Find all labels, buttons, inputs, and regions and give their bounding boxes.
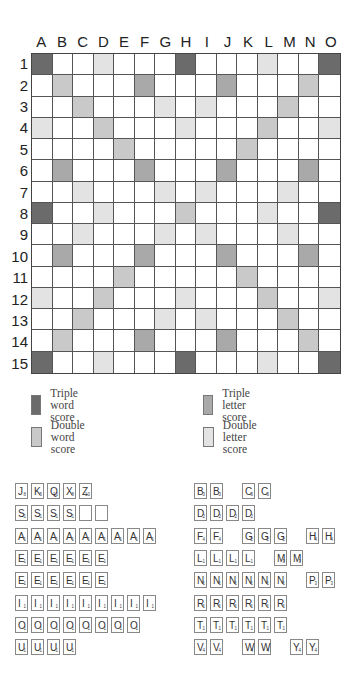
board-cell-H2 bbox=[176, 75, 197, 96]
board-cell-A3 bbox=[32, 97, 53, 118]
tile-a: A1 bbox=[47, 528, 60, 544]
board-cell-A1 bbox=[32, 54, 53, 75]
column-label: B bbox=[52, 33, 73, 51]
board-cell-D12 bbox=[94, 288, 115, 309]
board-cell-A5 bbox=[32, 139, 53, 160]
board-cell-D3 bbox=[94, 97, 115, 118]
tile-value: 4 bbox=[266, 648, 269, 653]
tile-a: A1 bbox=[111, 528, 124, 544]
tile-value: 1 bbox=[202, 581, 205, 586]
board-cell-H15 bbox=[176, 352, 197, 373]
row-label: 4 bbox=[0, 117, 28, 138]
board-cell-G1 bbox=[155, 54, 176, 75]
board-cell-O6 bbox=[319, 160, 340, 181]
board-cell-E1 bbox=[114, 54, 135, 75]
board-cell-N11 bbox=[299, 267, 320, 288]
left-tile-row: A1A1A1A1A1A1A1A1A1 bbox=[15, 528, 159, 545]
board-cell-E6 bbox=[114, 160, 135, 181]
board-cell-N3 bbox=[299, 97, 320, 118]
board-cell-C4 bbox=[73, 118, 94, 139]
board-cell-J11 bbox=[217, 267, 238, 288]
column-label: L bbox=[258, 33, 279, 51]
tile-value: 1 bbox=[39, 626, 42, 631]
tile-h: H4 bbox=[306, 528, 319, 544]
board-cell-O8 bbox=[319, 203, 340, 224]
tile-spacer bbox=[274, 639, 287, 655]
board-cell-M1 bbox=[278, 54, 299, 75]
board-cell-G9 bbox=[155, 224, 176, 245]
tile-e: E1 bbox=[15, 572, 28, 588]
tile-a: A1 bbox=[143, 528, 156, 544]
board-cell-E8 bbox=[114, 203, 135, 224]
tile-i: I1 bbox=[143, 595, 156, 611]
tile-spacer bbox=[258, 550, 271, 566]
board-cell-C14 bbox=[73, 330, 94, 351]
board-cell-L8 bbox=[258, 203, 279, 224]
tile-n: N1 bbox=[194, 572, 207, 588]
tile-letter: I bbox=[82, 597, 85, 610]
tile-value: 1 bbox=[135, 537, 138, 542]
board-cell-J9 bbox=[217, 224, 238, 245]
tile-o: O1 bbox=[111, 617, 124, 633]
tile-l: L1 bbox=[194, 550, 207, 566]
tile-value: 1 bbox=[39, 581, 42, 586]
column-label: M bbox=[279, 33, 300, 51]
tile-value: 1 bbox=[103, 559, 106, 564]
tile-value: 1 bbox=[202, 604, 205, 609]
board-cell-D9 bbox=[94, 224, 115, 245]
tile-r: R1 bbox=[242, 595, 255, 611]
tile-value: 1 bbox=[55, 537, 58, 542]
tile-value: 1 bbox=[39, 604, 42, 609]
board-cell-E13 bbox=[114, 309, 135, 330]
row-label: 5 bbox=[0, 139, 28, 160]
board-cell-E5 bbox=[114, 139, 135, 160]
legend-label: Triple letter score bbox=[222, 387, 259, 423]
tile-value: 1 bbox=[39, 514, 42, 519]
board-cell-N10 bbox=[299, 245, 320, 266]
tile-y: Y4 bbox=[290, 639, 303, 655]
board-cell-F15 bbox=[135, 352, 156, 373]
tile-value: 1 bbox=[55, 581, 58, 586]
board-cell-K4 bbox=[237, 118, 258, 139]
tile-value: 4 bbox=[314, 648, 317, 653]
board-cell-F4 bbox=[135, 118, 156, 139]
board-cell-O10 bbox=[319, 245, 340, 266]
tile-value: 2 bbox=[282, 537, 285, 542]
board-cell-O9 bbox=[319, 224, 340, 245]
tile-value: 1 bbox=[55, 626, 58, 631]
board-cell-D4 bbox=[94, 118, 115, 139]
tile-value: 1 bbox=[266, 604, 269, 609]
tile-value: 4 bbox=[250, 648, 253, 653]
board-cell-H6 bbox=[176, 160, 197, 181]
board-cell-M8 bbox=[278, 203, 299, 224]
board-cell-D15 bbox=[94, 352, 115, 373]
tile-d: D2 bbox=[242, 505, 255, 521]
tile-value: 4 bbox=[202, 537, 205, 542]
board-cell-B1 bbox=[53, 54, 74, 75]
tile-w: W4 bbox=[242, 639, 255, 655]
board-cell-A8 bbox=[32, 203, 53, 224]
tile-value: 1 bbox=[282, 604, 285, 609]
tile-value: 1 bbox=[71, 559, 74, 564]
board-cell-M15 bbox=[278, 352, 299, 373]
board-cell-E10 bbox=[114, 245, 135, 266]
tile-l: L1 bbox=[242, 550, 255, 566]
board-cell-M13 bbox=[278, 309, 299, 330]
column-label: C bbox=[72, 33, 93, 51]
row-labels: 123456789101112131415 bbox=[0, 53, 28, 374]
board-cell-K2 bbox=[237, 75, 258, 96]
tile-value: 4 bbox=[330, 537, 333, 542]
tile-value: 10 bbox=[85, 492, 90, 497]
board-cell-L5 bbox=[258, 139, 279, 160]
tile-s: S1 bbox=[63, 505, 76, 521]
tile-value: 3 bbox=[314, 581, 317, 586]
tile-v: V4 bbox=[210, 639, 223, 655]
board-cell-B14 bbox=[53, 330, 74, 351]
board-cell-F2 bbox=[135, 75, 156, 96]
tile-value: 1 bbox=[202, 626, 205, 631]
tile-j: J8 bbox=[15, 483, 28, 499]
left-tile-row: J8K5Q10X8Z10 bbox=[15, 483, 95, 500]
tile-value: 1 bbox=[250, 604, 253, 609]
board-cell-N5 bbox=[299, 139, 320, 160]
tile-value: 3 bbox=[250, 492, 253, 497]
